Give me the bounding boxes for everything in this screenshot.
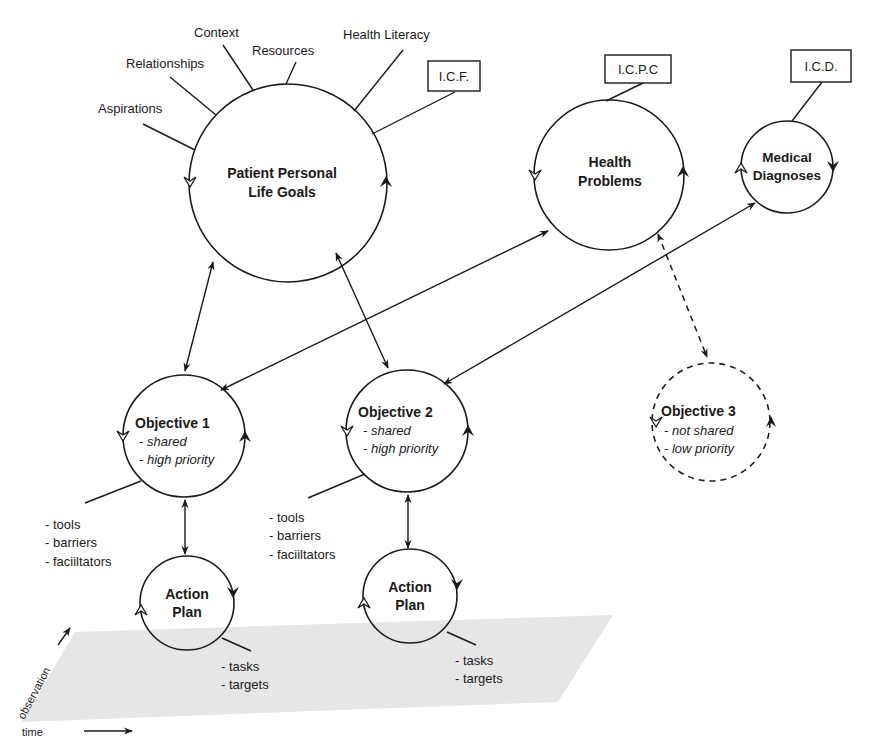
factor-context: Context [194,25,239,40]
objective-2-attr-shared: - shared [363,423,411,438]
objective-3-node: Objective 3 - not shared - low priority [650,363,776,481]
objective-2-resources: - tools - barriers - faciiltators [269,510,336,562]
icf-label: I.C.F. [439,69,469,84]
life-goals-title-line1: Patient Personal [227,165,337,181]
cycle-arrow-filled-icon [380,176,392,187]
action-plan-1-targets: - targets [221,677,269,692]
life-goals-factors: Aspirations Relationships Context Resour… [98,25,480,150]
action-plan-2-title-line2: Plan [395,597,425,613]
cycle-arrow-filled-icon [227,587,239,598]
factor-relationships: Relationships [126,56,205,71]
icd-label: I.C.D. [804,59,837,74]
action-plan-1-title-line1: Action [165,586,209,602]
medical-diagnoses-title-line1: Medical [762,150,812,165]
resource-tools: - tools [269,510,305,525]
medical-diagnoses-node: Medical Diagnoses I.C.D. [735,50,851,213]
health-problems-title-line1: Health [589,154,632,170]
cycle-arrow-open-icon [341,426,353,436]
objective-2-attr-priority: - high priority [363,441,440,456]
medical-diagnoses-title-line2: Diagnoses [753,168,821,183]
objective-3-attr-shared: - not shared [664,423,734,438]
resource-barriers: - barriers [269,528,322,543]
resource-barriers: - barriers [45,535,98,550]
factor-aspirations: Aspirations [98,101,163,116]
objective-1-resources: - tools - barriers - faciiltators [45,517,112,569]
resource-facilitators: - faciiltators [45,554,112,569]
cycle-arrow-filled-icon [451,579,463,590]
objective-1-title: Objective 1 [135,415,210,431]
health-problems-title-line2: Problems [578,173,642,189]
objective-1-node: Objective 1 - shared - high priority [85,375,251,503]
time-observation-plane [22,615,613,722]
objective-1-attr-priority: - high priority [139,452,216,467]
objective-3-attr-priority: - low priority [664,441,736,456]
life-goals-title-line2: Life Goals [248,184,316,200]
time-axis: time [22,726,132,738]
cycle-arrow-open-icon [529,170,541,180]
action-plan-2-title-line1: Action [388,579,432,595]
time-axis-label: time [22,726,43,738]
health-problems-node: Health Problems I.C.P.C [529,55,689,250]
objective-3-title: Objective 3 [661,403,736,419]
factor-health-literacy: Health Literacy [343,27,430,42]
action-plan-1-tasks: - tasks [221,659,260,674]
cycle-arrow-filled-icon [677,166,689,177]
connections [185,203,755,554]
icpc-label: I.C.P.C [618,62,658,77]
action-plan-2-targets: - targets [455,671,503,686]
resource-tools: - tools [45,517,81,532]
objective-1-attr-shared: - shared [139,434,187,449]
objective-2-node: Objective 2 - shared - high priority [308,370,474,498]
objective-2-title: Objective 2 [358,404,433,420]
cycle-arrow-filled-icon [766,416,776,427]
action-plan-1-title-line2: Plan [172,604,202,620]
cycle-arrow-open-icon [184,177,196,187]
action-plan-2-tasks: - tasks [455,653,494,668]
resource-facilitators: - faciiltators [269,547,336,562]
goal-oriented-care-diagram: observation time Patient Personal Life G… [0,0,871,748]
factor-resources: Resources [252,43,315,58]
